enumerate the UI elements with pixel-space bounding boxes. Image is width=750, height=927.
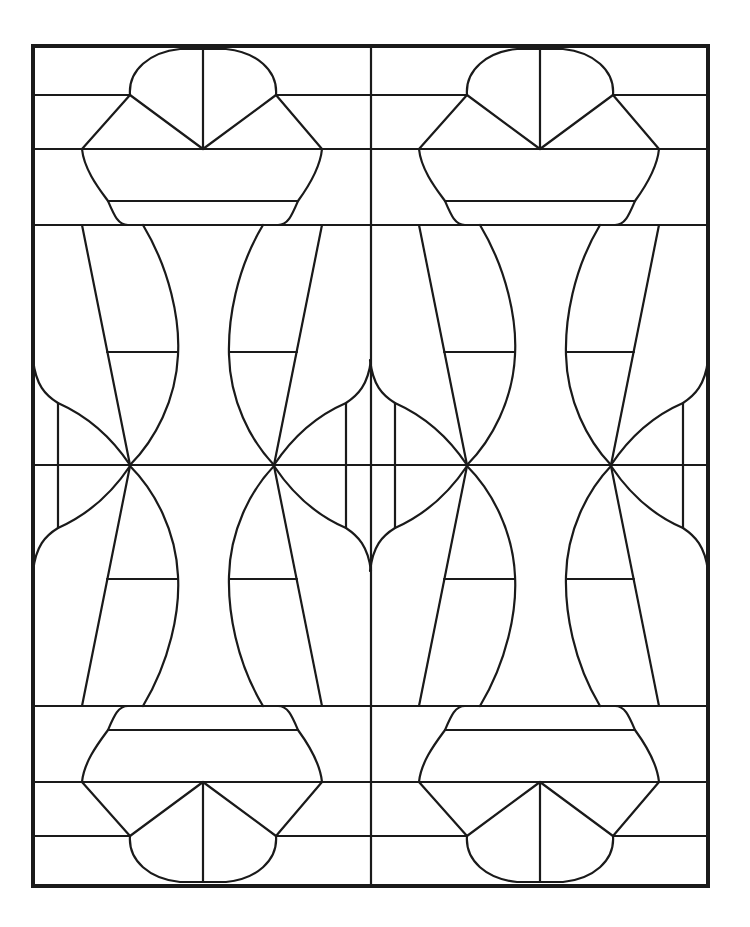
coloring-pattern xyxy=(0,0,750,927)
right-column xyxy=(370,49,708,882)
left-column xyxy=(33,49,371,882)
